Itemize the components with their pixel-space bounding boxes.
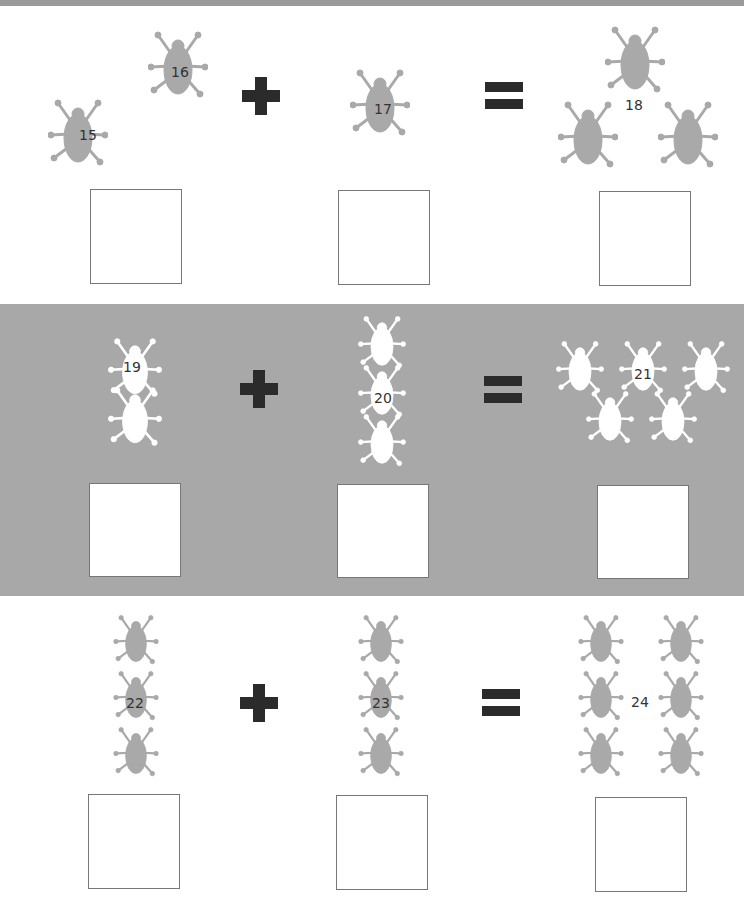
bug-label: 22 (126, 696, 144, 710)
answer-box-3[interactable] (599, 191, 691, 286)
beetle-icon (352, 315, 412, 370)
answer-box-3[interactable] (597, 485, 689, 579)
bug-label: 19 (123, 360, 141, 374)
answer-box-1[interactable] (88, 794, 180, 889)
beetle-icon (652, 726, 710, 778)
beetle-icon (658, 100, 718, 170)
bug-label: 18 (625, 98, 643, 112)
beetle-icon (558, 100, 618, 170)
answer-box-1[interactable] (90, 189, 182, 284)
bug-label: 15 (79, 128, 97, 142)
beetle-icon (105, 386, 165, 448)
beetle-icon (572, 726, 630, 778)
beetle-icon (652, 670, 710, 722)
answer-box-2[interactable] (338, 190, 430, 285)
beetle-icon (572, 614, 630, 666)
title-bar-fragment (0, 0, 744, 6)
answer-box-2[interactable] (336, 795, 428, 890)
answer-box-1[interactable] (89, 483, 181, 577)
beetle-icon (352, 726, 410, 778)
beetle-icon (676, 340, 736, 395)
beetle-icon (107, 726, 165, 778)
bug-label: 23 (372, 696, 390, 710)
beetle-icon (352, 614, 410, 666)
beetle-icon (352, 413, 412, 468)
beetle-icon (572, 670, 630, 722)
bug-label: 17 (374, 102, 392, 116)
beetle-icon (652, 614, 710, 666)
beetle-icon (48, 98, 108, 168)
bug-label: 21 (634, 367, 652, 381)
answer-box-3[interactable] (595, 797, 687, 892)
bug-label: 20 (374, 391, 392, 405)
bug-label: 24 (631, 695, 649, 709)
beetle-icon (580, 390, 640, 445)
bug-label: 16 (171, 65, 189, 79)
beetle-icon (643, 390, 703, 445)
beetle-icon (550, 340, 610, 395)
beetle-icon (605, 25, 665, 95)
answer-box-2[interactable] (337, 484, 429, 578)
beetle-icon (107, 614, 165, 666)
